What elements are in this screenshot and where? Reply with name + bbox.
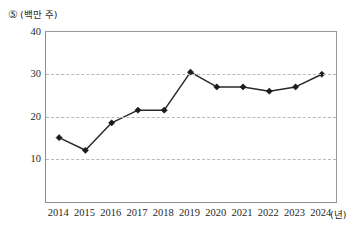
- x-tick-2017: 2017: [126, 207, 147, 218]
- chart-figure: ⑤(백만 주) 10203040 20142015201620172018201…: [0, 0, 358, 233]
- x-tick-2015: 2015: [74, 207, 95, 218]
- data-point-2021: [240, 84, 246, 90]
- x-tick-2014: 2014: [48, 207, 69, 218]
- plot-area: [45, 31, 337, 203]
- x-tick-2022: 2022: [258, 207, 279, 218]
- gridline-30: [46, 74, 336, 75]
- x-tick-2019: 2019: [179, 207, 200, 218]
- data-point-2022: [266, 88, 272, 94]
- x-tick-2024: 2024: [310, 207, 331, 218]
- data-point-2017: [135, 107, 141, 113]
- plot-inner: [46, 32, 336, 202]
- y-axis-unit-label: (백만 주): [20, 9, 57, 20]
- data-point-2023: [292, 84, 298, 90]
- gridline-20: [46, 117, 336, 118]
- item-number-label: ⑤: [8, 8, 18, 20]
- data-point-2014: [56, 135, 62, 141]
- y-tick-30: 30: [8, 68, 41, 79]
- gridline-10: [46, 159, 336, 160]
- x-tick-2021: 2021: [232, 207, 253, 218]
- y-axis-unit-caption: ⑤(백만 주): [8, 7, 57, 21]
- series-line: [59, 72, 322, 150]
- x-axis-unit-label: (년): [330, 207, 346, 221]
- data-point-2020: [214, 84, 220, 90]
- x-axis-unit-text: (년): [330, 209, 346, 220]
- y-tick-40: 40: [8, 26, 41, 37]
- x-tick-2018: 2018: [153, 207, 174, 218]
- data-point-markers: [56, 69, 325, 153]
- x-tick-2016: 2016: [100, 207, 121, 218]
- y-tick-10: 10: [8, 152, 41, 163]
- y-tick-20: 20: [8, 110, 41, 121]
- x-axis-tick-labels: 2014201520162017201820192020202120222023…: [45, 207, 337, 227]
- x-tick-2023: 2023: [284, 207, 305, 218]
- x-tick-2020: 2020: [205, 207, 226, 218]
